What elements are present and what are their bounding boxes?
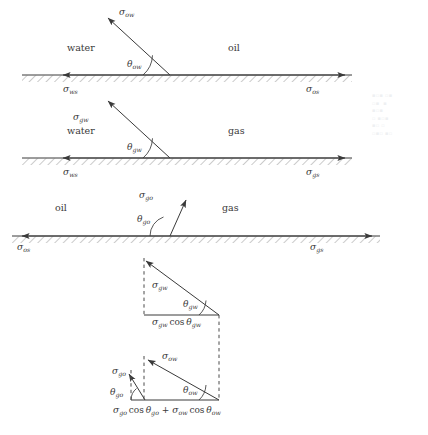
composition-theta-ow-label: θow [183, 386, 198, 395]
composition-sigma-go-label: σgo [112, 367, 126, 376]
theta-go-arc [131, 389, 137, 401]
composition-theta-gw-label: θgw [183, 300, 198, 309]
diagram-svg [0, 0, 428, 435]
composition-upper-base-formula: σgw cos θgw [152, 318, 201, 327]
panel3-sigma-gs-label: σgs [310, 243, 323, 252]
panel3-sigma-go-label: σgo [139, 191, 153, 200]
solid-hatching [22, 76, 352, 83]
panel3-right-phase-label: gas [222, 203, 239, 213]
panel1-sigma-ow-label: σow [119, 8, 134, 17]
page-showthrough-artifact: ▪▫▪ ▫▪▫▪ ▪▪▫▪▫ ▪▫▪▪▫ ▫▫▪▫ ▪▫ [372, 92, 424, 137]
panel1-theta-ow-label: θow [127, 60, 142, 69]
composition-lower [129, 356, 219, 400]
panel1-sigma-os-label: σos [306, 85, 319, 94]
panel3-sigma-os-label: σos [17, 243, 30, 252]
panel2-sigma-ws-label: σws [63, 168, 78, 177]
solid-hatching [22, 159, 352, 166]
panel2-theta-gw-label: θgw [127, 143, 142, 152]
theta-go-arc [150, 217, 164, 236]
panel1-left-phase-label: water [67, 43, 95, 53]
sigma-go-vector [170, 200, 186, 236]
panel2-sigma-gs-label: σgs [306, 168, 319, 177]
composition-lower-base-formula: σgo cos θgo + σow cos θow [113, 406, 221, 415]
panel2-sigma-gw-label: σgw [73, 113, 89, 122]
panel3-theta-go-label: θgo [137, 215, 150, 224]
composition-sigma-ow-label: σow [162, 352, 177, 361]
panel1-right-phase-label: oil [228, 43, 240, 53]
panel2-right-phase-label: gas [228, 126, 245, 136]
figure-canvas: water oil σow θow σws σos water gas σgw … [0, 0, 428, 435]
panel2-left-phase-label: water [67, 126, 95, 136]
solid-hatching [12, 237, 380, 244]
panel1-sigma-ws-label: σws [63, 85, 78, 94]
panel-gas-oil [12, 200, 380, 243]
panel3-left-phase-label: oil [55, 203, 67, 213]
composition-sigma-gw-label: σgw [152, 281, 168, 290]
composition-theta-go-label: θgo [110, 388, 123, 397]
